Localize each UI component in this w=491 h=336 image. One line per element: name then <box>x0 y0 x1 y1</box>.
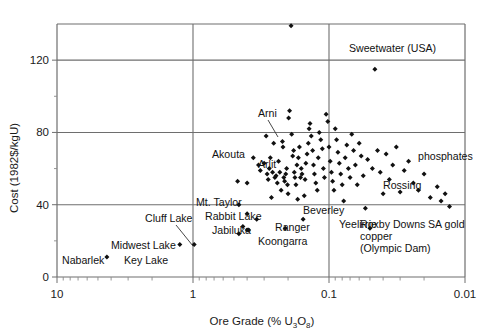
xtick-label-0.01: 0.01 <box>454 288 476 300</box>
annotation-arlit: Arlit <box>258 158 276 170</box>
annotation-rabbit-lake: Rabbit Lake <box>205 210 262 222</box>
y-axis-title: Cost (1982$/kgU) <box>8 123 20 213</box>
annotation-phosphates: phosphates <box>418 150 473 162</box>
annotation-olympic-dam: (Olympic Dam) <box>360 242 431 254</box>
annotation-roxby-downs: Roxby Downs <box>360 218 425 230</box>
annotation-nabarlek: Nabarlek <box>62 254 105 266</box>
ytick-label-120: 120 <box>30 54 49 66</box>
xtick-label-1: 1 <box>190 288 196 300</box>
ytick-label-80: 80 <box>36 126 49 138</box>
annotation-cluff-lake: Cluff Lake <box>145 212 193 224</box>
annotation-key-lake: Key Lake <box>124 254 168 266</box>
uranium-cost-vs-ore-grade-chart: 040801201010.10.01 Sweetwater (USA)Arnip… <box>0 0 491 336</box>
annotation-copper: copper <box>360 230 393 242</box>
chart-canvas: 040801201010.10.01 Sweetwater (USA)Arnip… <box>0 0 491 336</box>
annotation-jabiluka: Jabiluka <box>212 224 251 236</box>
annotation-mt-taylor: Mt. Taylor <box>196 196 242 208</box>
annotation-sa-gold: SA gold <box>428 218 465 230</box>
annotation-akouta: Akouta <box>212 148 245 160</box>
annotation-rossing: Rossing <box>383 179 421 191</box>
ytick-label-0: 0 <box>43 271 49 283</box>
annotation-koongarra: Koongarra <box>258 235 308 247</box>
annotation-sweetwater-usa: Sweetwater (USA) <box>349 42 436 54</box>
xtick-label-10: 10 <box>51 288 64 300</box>
annotation-beverley: Beverley <box>303 204 345 216</box>
annotation-midwest-lake: Midwest Lake <box>111 239 176 251</box>
ytick-label-40: 40 <box>36 199 49 211</box>
annotation-ranger: Ranger <box>275 221 310 233</box>
annotation-arni: Arni <box>258 107 277 119</box>
xtick-label-0.1: 0.1 <box>321 288 337 300</box>
